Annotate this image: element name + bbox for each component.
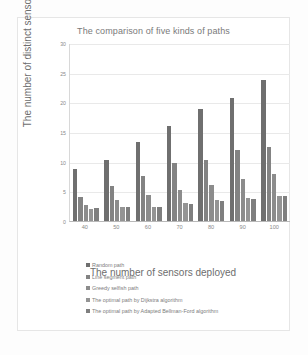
bar[interactable]	[78, 197, 82, 221]
bar[interactable]	[172, 163, 176, 221]
chart-title: The comparison of five kinds of paths	[18, 26, 289, 36]
x-tick-label: 70	[164, 224, 196, 230]
legend-label: Line segment path	[92, 274, 136, 280]
bar-group	[196, 44, 227, 221]
bar[interactable]	[246, 198, 250, 221]
y-tick-label: 5	[63, 189, 66, 195]
bar[interactable]	[73, 169, 77, 221]
bar-group	[133, 44, 164, 221]
bar[interactable]	[115, 200, 119, 221]
y-tick-label: 10	[60, 160, 66, 166]
bar[interactable]	[141, 176, 145, 221]
bar[interactable]	[209, 185, 213, 221]
legend-item[interactable]: Line segment path	[86, 274, 218, 280]
bar[interactable]	[272, 174, 276, 221]
bar-group	[259, 44, 290, 221]
legend-swatch-icon	[86, 275, 90, 279]
legend-item[interactable]: Random path	[86, 262, 218, 268]
bar[interactable]	[157, 207, 161, 221]
y-tick-label: 0	[63, 219, 66, 225]
x-tick-label: 90	[227, 224, 259, 230]
bar-group	[227, 44, 258, 221]
x-tick-label: 80	[195, 224, 227, 230]
bar[interactable]	[230, 98, 234, 221]
bar[interactable]	[94, 208, 98, 221]
y-tick-label: 30	[60, 41, 66, 47]
legend-swatch-icon	[86, 298, 90, 302]
bar[interactable]	[110, 186, 114, 221]
x-tick-label: 40	[69, 224, 101, 230]
y-tick-label: 20	[60, 100, 66, 106]
chart-legend: Random pathLine segment pathGreedy selfi…	[86, 262, 218, 314]
bar[interactable]	[215, 200, 219, 221]
bar[interactable]	[167, 126, 171, 221]
bar-group	[101, 44, 132, 221]
plot-wrapper: The number of distinct sensors crossed 0…	[36, 44, 290, 244]
legend-item[interactable]: The optimal path by Dijkstra algorithm	[86, 297, 218, 303]
bar[interactable]	[152, 207, 156, 221]
legend-label: Greedy selfish path	[92, 285, 138, 291]
bar[interactable]	[120, 207, 124, 221]
bar[interactable]	[89, 209, 93, 221]
legend-swatch-icon	[86, 286, 90, 290]
bar[interactable]	[204, 160, 208, 221]
y-tick-label: 15	[60, 130, 66, 136]
bar[interactable]	[241, 179, 245, 221]
x-tick-label: 60	[132, 224, 164, 230]
bar[interactable]	[146, 195, 150, 221]
bar-groups	[70, 44, 290, 221]
legend-label: Random path	[92, 262, 124, 268]
bar[interactable]	[104, 160, 108, 221]
legend-item[interactable]: The optimal path by Adapted Bellman-Ford…	[86, 308, 218, 314]
bar[interactable]	[283, 196, 287, 221]
legend-swatch-icon	[86, 263, 90, 267]
bar[interactable]	[183, 203, 187, 221]
bar-group	[70, 44, 101, 221]
x-axis-ticks: 405060708090100	[69, 224, 290, 230]
bar[interactable]	[235, 150, 239, 221]
bar[interactable]	[277, 196, 281, 222]
y-tick-label: 25	[60, 71, 66, 77]
legend-item[interactable]: Greedy selfish path	[86, 285, 218, 291]
bar[interactable]	[198, 109, 202, 221]
bar[interactable]	[126, 207, 130, 221]
chart-frame: The comparison of five kinds of paths Th…	[17, 17, 290, 331]
bar[interactable]	[261, 80, 265, 221]
bar[interactable]	[251, 199, 255, 221]
legend-swatch-icon	[86, 309, 90, 313]
bar[interactable]	[220, 201, 224, 221]
bar[interactable]	[189, 204, 193, 221]
legend-label: The optimal path by Dijkstra algorithm	[92, 297, 182, 303]
legend-label: The optimal path by Adapted Bellman-Ford…	[92, 308, 218, 314]
bar[interactable]	[267, 147, 271, 221]
x-tick-label: 100	[258, 224, 290, 230]
bar[interactable]	[136, 142, 140, 221]
x-tick-label: 50	[101, 224, 133, 230]
bar[interactable]	[178, 190, 182, 221]
plot-area	[69, 44, 290, 222]
y-axis-ticks: 051015202530	[50, 44, 66, 222]
y-axis-title: The number of distinct sensors crossed	[22, 0, 33, 130]
bar[interactable]	[84, 205, 88, 221]
bar-group	[164, 44, 195, 221]
